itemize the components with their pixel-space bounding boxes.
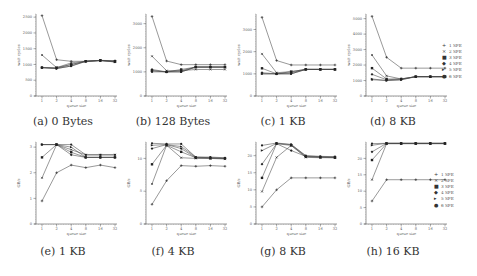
axes: 010002000300012481632queue sizewait cycl… [236, 14, 337, 108]
svg-text:1000: 1000 [23, 63, 33, 67]
legend-item: ●6 SPE [442, 73, 462, 79]
y-axis-label: wait cycles [16, 44, 21, 65]
series-line [371, 142, 446, 145]
x-axis-label: queue size [177, 104, 196, 108]
svg-text:1: 1 [41, 99, 43, 103]
caption-h: (h) 16 KB [338, 245, 448, 258]
svg-text:1: 1 [371, 227, 373, 231]
svg-text:0: 0 [360, 94, 363, 98]
series-line [261, 177, 337, 209]
svg-text:4: 4 [400, 227, 403, 231]
svg-text:3000: 3000 [133, 22, 143, 26]
svg-text:4: 4 [70, 227, 73, 231]
caption-b: (b) 128 Bytes [118, 115, 228, 128]
caption-d: (d) 8 KB [338, 115, 448, 128]
svg-text:2000: 2000 [23, 31, 33, 35]
y-axis-label: GB/s [346, 178, 351, 187]
circle-marker-icon: ● [434, 203, 441, 208]
circle-marker-icon: ● [442, 74, 449, 79]
svg-text:4: 4 [180, 227, 183, 231]
series-line [151, 164, 227, 205]
y-axis-label: wait cycles [346, 44, 351, 65]
chart-h-svg: 0510152012481632queue sizeGB/s [330, 136, 450, 236]
legend-item: ●6 SPE [434, 202, 454, 208]
y-axis-label: GB/s [126, 178, 131, 187]
svg-text:32: 32 [443, 99, 448, 103]
svg-text:0: 0 [140, 222, 143, 226]
series-line [151, 144, 226, 165]
chart-panel-b: 010002000300012481632queue sizewait cycl… [110, 8, 230, 108]
chart-panel-h: 0510152012481632queue sizeGB/s [330, 136, 450, 236]
svg-text:4: 4 [290, 99, 293, 103]
svg-text:32: 32 [443, 227, 448, 231]
svg-text:16: 16 [208, 99, 213, 103]
x-axis-label: queue size [287, 104, 306, 108]
chart-g-svg: 0510152012481632queue sizeGB/s [220, 136, 340, 236]
caption-f: (f) 4 KB [118, 245, 228, 258]
series-line [371, 15, 447, 69]
legend-top: +1 SPE ×2 SPE ■3 SPE ◆4 SPE ▸5 SPE ●6 SP… [442, 42, 462, 79]
svg-text:4000: 4000 [353, 32, 363, 36]
svg-text:5000: 5000 [353, 17, 363, 21]
y-axis-label: wait cycles [236, 44, 241, 65]
svg-text:2000: 2000 [243, 50, 253, 54]
axes: 0510152012481632queue sizeGB/s [236, 142, 337, 236]
svg-text:2: 2 [30, 171, 32, 175]
svg-text:2000: 2000 [353, 63, 363, 67]
svg-text:3000: 3000 [243, 28, 253, 32]
caption-e: (e) 1 KB [8, 245, 118, 258]
svg-text:8: 8 [195, 227, 198, 231]
chart-f-svg: 051012481632queue sizeGB/s [110, 136, 230, 236]
svg-text:10: 10 [357, 189, 362, 193]
svg-text:2: 2 [55, 227, 57, 231]
triangle-marker-icon: ▸ [434, 196, 441, 201]
svg-text:500: 500 [25, 78, 33, 82]
chart-c-svg: 010002000300012481632queue sizewait cycl… [220, 8, 340, 108]
svg-text:3: 3 [30, 145, 33, 149]
svg-text:0: 0 [140, 94, 143, 98]
x-axis-label: queue size [397, 104, 416, 108]
svg-text:2: 2 [275, 227, 277, 231]
series-line [41, 143, 117, 159]
axes: 0510152012481632queue sizeGB/s [346, 142, 447, 236]
svg-text:8: 8 [85, 99, 88, 103]
svg-text:5: 5 [140, 189, 143, 193]
chart-panel-g: 0510152012481632queue sizeGB/s [220, 136, 340, 236]
svg-text:16: 16 [208, 227, 213, 231]
y-axis-label: wait cycles [126, 44, 131, 65]
axes: 051012481632queue sizeGB/s [126, 142, 227, 236]
chart-panel-d: 01000200030004000500012481632queue sizew… [330, 8, 450, 108]
caption-c: (c) 1 KB [228, 115, 338, 128]
svg-text:1: 1 [371, 99, 373, 103]
svg-text:10: 10 [247, 188, 252, 192]
svg-text:4: 4 [70, 99, 73, 103]
x-axis-label: queue size [67, 232, 86, 236]
series-line [151, 15, 227, 66]
svg-text:0: 0 [250, 222, 253, 226]
chart-panel-c: 010002000300012481632queue sizewait cycl… [220, 8, 340, 108]
svg-text:1000: 1000 [353, 79, 363, 83]
svg-text:2: 2 [385, 99, 387, 103]
svg-text:8: 8 [85, 227, 88, 231]
chart-a-svg: 0500100015002000250012481632queue sizewa… [0, 8, 120, 108]
svg-text:8: 8 [305, 99, 308, 103]
svg-text:15: 15 [357, 173, 362, 177]
svg-text:2: 2 [385, 227, 387, 231]
svg-text:4: 4 [180, 99, 183, 103]
svg-text:8: 8 [415, 227, 418, 231]
series-line [41, 164, 117, 202]
svg-text:4: 4 [290, 227, 293, 231]
triangle-marker-icon: ▸ [442, 67, 449, 72]
x-axis-label: queue size [67, 104, 86, 108]
plus-marker-icon: + [434, 172, 441, 177]
svg-text:0: 0 [360, 222, 363, 226]
axes: 012312481632queue sizeGB/s [16, 142, 117, 236]
svg-text:10: 10 [137, 157, 142, 161]
svg-text:16: 16 [98, 99, 103, 103]
svg-text:8: 8 [195, 99, 198, 103]
chart-panel-a: 0500100015002000250012481632queue sizewa… [0, 8, 120, 108]
chart-panel-e: 012312481632queue sizeGB/s [0, 136, 120, 236]
axes: 010002000300012481632queue sizewait cycl… [126, 14, 227, 108]
svg-text:0: 0 [250, 94, 253, 98]
x-axis-label: queue size [177, 232, 196, 236]
